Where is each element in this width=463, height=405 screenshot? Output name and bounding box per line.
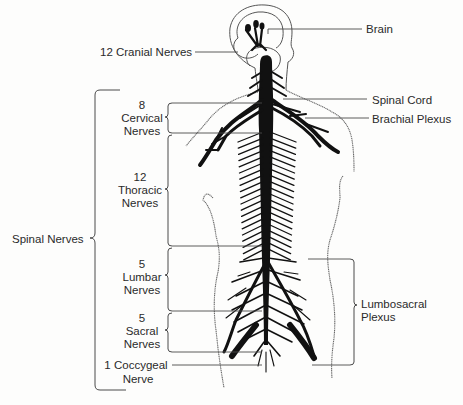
cervical-label: Cervical (121, 112, 163, 124)
brain-structure (245, 20, 266, 50)
diagram-canvas: Brain 12 Cranial Nerves Spinal Cord Brac… (0, 0, 463, 405)
spinal-nerves-label: Spinal Nerves (12, 233, 84, 245)
sacral-count: 5 (139, 312, 145, 324)
lumbar-count: 5 (139, 258, 145, 270)
nervous-system-diagram: Brain 12 Cranial Nerves Spinal Cord Brac… (0, 0, 463, 405)
lumbar-label-2: Nerves (124, 284, 161, 296)
cervical-count: 8 (139, 99, 145, 111)
thoracic-label: Thoracic (118, 184, 162, 196)
coccygeal-label: 1 Coccygeal (104, 359, 167, 371)
brain-label: Brain (366, 23, 393, 35)
thoracic-brace (165, 135, 172, 246)
thoracic-count: 12 (134, 171, 147, 183)
brachial-plexus-label: Brachial Plexus (372, 113, 452, 125)
sacral-label: Sacral (126, 325, 159, 337)
cervical-label-2: Nerves (124, 125, 161, 137)
lumbosacral-label: Lumbosacral (361, 298, 427, 310)
brachial-plexus-right (272, 100, 338, 152)
spinal-cord-label: Spinal Cord (372, 94, 432, 106)
coccygeal-label-2: Nerve (123, 373, 154, 385)
left-torso-outline (203, 194, 224, 388)
sacral-label-2: Nerves (124, 338, 161, 350)
lumbar-label: Lumbar (123, 271, 162, 283)
cervical-brace (165, 103, 172, 133)
cranial-nerves-label: 12 Cranial Nerves (100, 46, 192, 58)
right-shoulder-outline (286, 90, 354, 172)
sacral-brace (165, 313, 172, 352)
nervous-system (200, 20, 338, 372)
lumbosacral-brace (350, 259, 357, 365)
lumbosacral-label-2: Plexus (361, 311, 396, 323)
spinal-nerves-brace (90, 90, 126, 390)
thoracic-label-2: Nerves (122, 197, 159, 209)
lumbar-brace (165, 248, 172, 311)
right-torso-outline (328, 176, 343, 378)
neck-left-outline (255, 68, 258, 92)
